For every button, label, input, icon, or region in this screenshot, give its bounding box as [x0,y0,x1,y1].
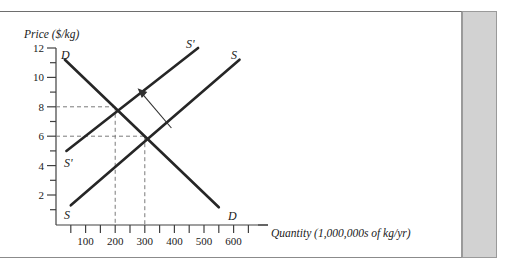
demand-curve-label-top: D [61,49,70,61]
supply-curve-label-bottom: S [64,209,70,221]
y-tick-label-12: 12 [28,43,44,54]
supply-shifted-curve-label-bottom: S' [64,157,73,169]
y-tick-label-4: 4 [28,161,44,172]
x-tick-label-100: 100 [71,236,101,247]
x-axis-title: Quantity (1,000,000s of kg/yr) [271,228,411,240]
x-tick-label-400: 400 [159,236,189,247]
x-tick-label-300: 300 [130,236,160,247]
y-tick-label-8: 8 [28,102,44,113]
y-axis-ticks [47,48,56,210]
y-tick-label-10: 10 [28,72,44,83]
x-axis-ticks [71,225,249,233]
y-axis-title: Price ($/kg) [24,29,79,41]
x-tick-label-200: 200 [100,236,130,247]
x-tick-label-500: 500 [189,236,219,247]
supply-shifted-curve-label-top: S' [186,38,195,50]
supply-shifted-curve [66,48,198,151]
curves [65,48,240,207]
figure-page: Price ($/kg) Quantity (1,000,000s of kg/… [0,0,517,277]
supply-curve-label-top: S [231,49,237,61]
supply-demand-figure: Price ($/kg) Quantity (1,000,000s of kg/… [0,11,462,258]
supply-shift-arrow [139,89,172,128]
demand-curve-label-bottom: D [228,210,237,222]
y-tick-label-2: 2 [28,190,44,201]
y-tick-label-6: 6 [28,131,44,142]
page-right-gray-band [462,11,497,258]
x-tick-label-600: 600 [219,236,249,247]
